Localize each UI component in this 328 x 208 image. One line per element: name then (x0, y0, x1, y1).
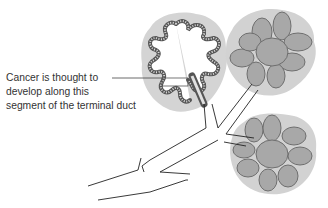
annotation-line-1: Cancer is thought to (6, 71, 176, 85)
annotation-line-2: develop along this (6, 85, 176, 99)
annotation-line-3: segment of the terminal duct (6, 99, 176, 113)
annotation-text: Cancer is thought to develop along this … (6, 71, 176, 113)
